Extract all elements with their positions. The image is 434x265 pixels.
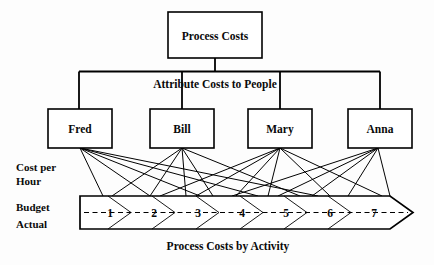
fan-line [80, 148, 103, 196]
actual-label: Actual [16, 218, 47, 230]
fan-line [80, 148, 258, 196]
fan-line [196, 148, 280, 196]
diagram-caption: Process Costs by Activity [167, 240, 290, 253]
activity-number: 7 [371, 207, 377, 219]
fan-line [378, 148, 390, 196]
activity-number: 6 [327, 207, 333, 219]
fan-line [312, 148, 378, 196]
person-label-fred: Fred [68, 123, 92, 135]
fan-line [160, 148, 280, 196]
cost-per-hour-label-line2: Hour [16, 175, 41, 187]
activity-number: 3 [195, 207, 201, 219]
cost-per-hour-fan-lines [80, 148, 390, 196]
budget-label: Budget [16, 201, 50, 213]
activity-number: 5 [283, 207, 289, 219]
process-costs-label: Process Costs [182, 30, 249, 42]
person-label-mary: Mary [266, 123, 294, 136]
activity-band [80, 196, 413, 229]
process-costs-diagram: Process Costs Attribute Costs to People … [0, 0, 434, 265]
activity-number: 2 [151, 207, 157, 219]
fan-line [236, 148, 280, 196]
cost-per-hour-label-line1: Cost per [16, 161, 56, 173]
fan-line [232, 148, 378, 196]
attribute-costs-label: Attribute Costs to People [153, 78, 277, 91]
person-label-bill: Bill [173, 123, 190, 135]
activity-number: 1 [107, 207, 113, 219]
fan-line [280, 148, 382, 196]
activity-number: 4 [239, 207, 245, 219]
diagram-canvas: Process Costs Attribute Costs to People … [0, 0, 434, 265]
fan-line [112, 148, 182, 196]
person-label-anna: Anna [367, 123, 394, 135]
